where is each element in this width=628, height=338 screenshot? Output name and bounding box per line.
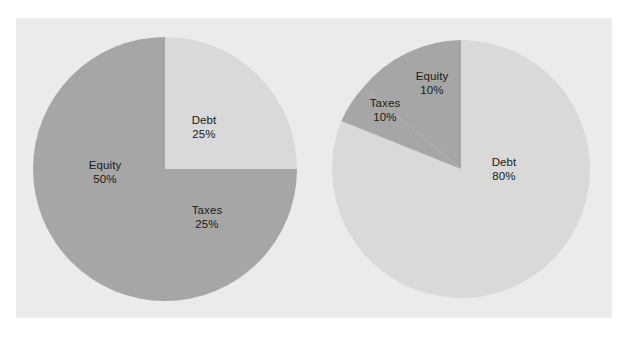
left-pie-chart xyxy=(33,37,297,301)
top-white-margin xyxy=(0,0,628,16)
left-pie-slice-taxes[interactable] xyxy=(165,169,297,301)
left-pie-slice-debt[interactable] xyxy=(165,37,297,169)
left-pie-slice-equity[interactable] xyxy=(33,37,165,301)
chart-panel: Debt 25% Taxes 25% Equity 50% Debt 80% E… xyxy=(16,18,612,318)
figure-root: Debt 25% Taxes 25% Equity 50% Debt 80% E… xyxy=(0,0,628,338)
right-pie-chart xyxy=(332,40,590,298)
pie-charts-svg xyxy=(16,18,612,318)
